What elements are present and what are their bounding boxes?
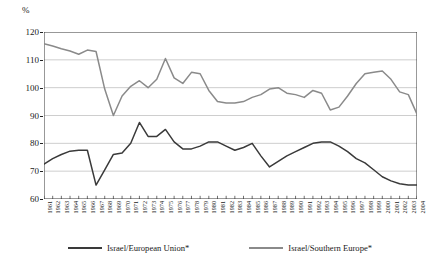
- x-axis-tick-label: 1994: [333, 201, 339, 213]
- x-axis-tick-label: 2001: [394, 201, 400, 213]
- x-axis-tick-label: 2004: [420, 201, 426, 213]
- x-axis-tick-label: 1965: [81, 201, 87, 213]
- y-axis-tick-label: 90: [30, 111, 39, 120]
- x-axis-tick-label: 2003: [411, 201, 417, 213]
- x-axis-tick-label: 1971: [133, 201, 139, 213]
- x-axis-tick-label: 1988: [281, 201, 287, 213]
- x-axis-tick-label: 1982: [229, 201, 235, 213]
- x-axis-tick-label: 1968: [107, 201, 113, 213]
- x-axis-tick-label: 1991: [307, 201, 313, 213]
- x-axis-tick-label: 1976: [177, 201, 183, 213]
- x-axis-tick-label: 1963: [64, 201, 70, 213]
- x-axis-tick-label: 1972: [142, 201, 148, 213]
- x-axis-tick-label: 2002: [402, 201, 408, 213]
- y-axis-tick-label: 110: [26, 55, 39, 64]
- legend-swatch-icon: [68, 247, 102, 249]
- y-axis-tick-label: 70: [30, 167, 39, 176]
- x-axis-tick-label: 1964: [73, 201, 79, 213]
- chart-legend: Israel/European Union* Israel/Southern E…: [0, 240, 440, 256]
- x-axis-tick-label: 1986: [263, 201, 269, 213]
- chart-container: % 60708090100110120 19611962196319641965…: [0, 0, 440, 259]
- x-axis-tick-label: 1998: [368, 201, 374, 213]
- x-axis-tick-labels: 1961196219631964196519661967196819691970…: [44, 201, 417, 237]
- plot-area: 60708090100110120: [44, 32, 417, 199]
- y-axis-tick-mark: [40, 199, 43, 200]
- x-axis-tick-label: 1996: [350, 201, 356, 213]
- x-axis-tick-label: 1999: [376, 201, 382, 213]
- y-axis-tick-mark: [40, 171, 43, 172]
- x-axis-tick-label: 1962: [55, 201, 61, 213]
- x-axis-tick-label: 1977: [185, 201, 191, 213]
- chart-svg: [44, 32, 417, 199]
- y-axis-tick-label: 120: [26, 28, 40, 37]
- legend-label: Israel/Southern Europe*: [288, 243, 372, 253]
- x-axis-tick-label: 1973: [151, 201, 157, 213]
- x-axis-tick-label: 1987: [272, 201, 278, 213]
- legend-label: Israel/European Union*: [107, 243, 189, 253]
- y-axis-tick-mark: [40, 60, 43, 61]
- y-axis-unit-label: %: [22, 5, 30, 15]
- y-axis-tick-mark: [40, 32, 43, 33]
- x-axis-tick-label: 1995: [342, 201, 348, 213]
- x-axis-tick-label: 1979: [203, 201, 209, 213]
- x-axis-tick-label: 1966: [90, 201, 96, 213]
- legend-item-israel-southern-europe[interactable]: Israel/Southern Europe*: [249, 243, 372, 253]
- x-axis-tick-label: 1985: [255, 201, 261, 213]
- x-axis-tick-label: 2000: [385, 201, 391, 213]
- legend-swatch-icon: [249, 247, 283, 249]
- y-axis-tick-label: 80: [30, 139, 39, 148]
- x-axis-tick-label: 1990: [298, 201, 304, 213]
- y-axis-tick-label: 100: [26, 83, 40, 92]
- x-axis-tick-label: 1967: [99, 201, 105, 213]
- x-axis-tick-label: 1993: [324, 201, 330, 213]
- x-axis-tick-label: 1969: [116, 201, 122, 213]
- y-axis-tick-mark: [40, 116, 43, 117]
- legend-item-israel-eu[interactable]: Israel/European Union*: [68, 243, 189, 253]
- x-axis-tick-label: 1975: [168, 201, 174, 213]
- y-axis-tick-label: 60: [30, 195, 39, 204]
- x-axis-tick-label: 1961: [47, 201, 53, 213]
- y-axis-tick-mark: [40, 143, 43, 144]
- x-axis-tick-label: 1970: [125, 201, 131, 213]
- x-axis-tick-label: 1974: [159, 201, 165, 213]
- x-axis-tick-label: 1997: [359, 201, 365, 213]
- x-axis-tick-label: 1981: [220, 201, 226, 213]
- x-axis-tick-label: 1980: [211, 201, 217, 213]
- x-axis-tick-label: 1983: [237, 201, 243, 213]
- x-axis-tick-label: 1992: [316, 201, 322, 213]
- x-axis-tick-label: 1989: [289, 201, 295, 213]
- x-axis-tick-label: 1978: [194, 201, 200, 213]
- y-axis-tick-mark: [40, 88, 43, 89]
- x-axis-tick-label: 1984: [246, 201, 252, 213]
